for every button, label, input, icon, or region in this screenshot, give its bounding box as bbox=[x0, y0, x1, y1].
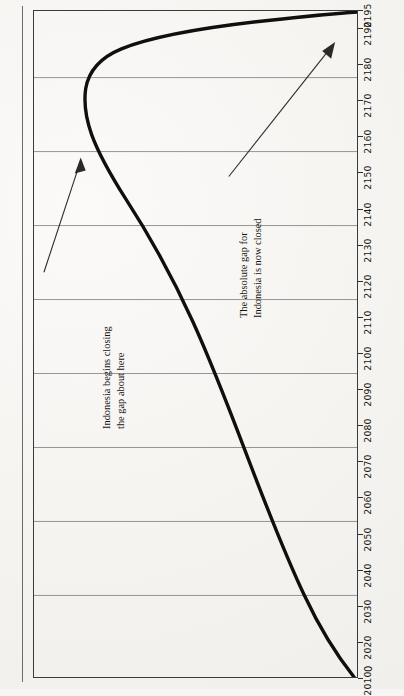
x-axis-tick-label: 2150 bbox=[362, 166, 373, 190]
annotation-indonesia-begins-closing: Indonesia begins closing the gap about h… bbox=[100, 326, 127, 429]
x-axis-tick-label: 2010 bbox=[362, 671, 373, 695]
x-axis: 2010202020302040205020602070208020902100… bbox=[358, 10, 404, 678]
x-axis-tick-label: 2050 bbox=[362, 527, 373, 551]
annotation-gap-now-closed: The absolute gap for Indonesia is now cl… bbox=[237, 218, 264, 318]
x-axis-tick-label: 2030 bbox=[362, 599, 373, 623]
x-axis-tick-label: 2195 bbox=[362, 3, 373, 27]
annotation-1-arrow bbox=[44, 158, 86, 273]
caption-divider bbox=[22, 6, 23, 682]
x-axis-tick-label: 2020 bbox=[362, 635, 373, 659]
x-axis-tick-label: 2100 bbox=[362, 346, 373, 370]
annotation-1-line-1: Indonesia begins closing bbox=[101, 326, 112, 429]
x-axis-tick-label: 2160 bbox=[362, 130, 373, 154]
x-axis-tick-label: 2060 bbox=[362, 491, 373, 515]
x-axis-tick-label: 2170 bbox=[362, 94, 373, 118]
annotation-2-arrow bbox=[229, 42, 335, 177]
x-axis-tick-label: 2180 bbox=[362, 57, 373, 81]
chart-plot-area: Indonesia begins closing the gap about h… bbox=[33, 10, 358, 678]
x-axis-tick-label: 2080 bbox=[362, 419, 373, 443]
chart-svg bbox=[34, 11, 357, 677]
x-axis-tick-label: 2070 bbox=[362, 455, 373, 479]
y-axis-origin-label: 0 bbox=[363, 666, 374, 672]
annotation-2-line-2: Indonesia is now closed bbox=[251, 218, 265, 318]
x-axis-tick-label: 2110 bbox=[362, 310, 373, 334]
annotation-1-line-2: the gap about here bbox=[114, 326, 128, 429]
x-axis-tick-label: 2120 bbox=[362, 274, 373, 298]
gridlines bbox=[34, 78, 357, 596]
x-axis-tick-label: 2040 bbox=[362, 563, 373, 587]
x-axis-tick-label: 2140 bbox=[362, 202, 373, 226]
annotation-2-line-1: The absolute gap for bbox=[238, 232, 249, 318]
x-axis-tick-label: 2090 bbox=[362, 382, 373, 406]
x-axis-tick-label: 2130 bbox=[362, 238, 373, 262]
